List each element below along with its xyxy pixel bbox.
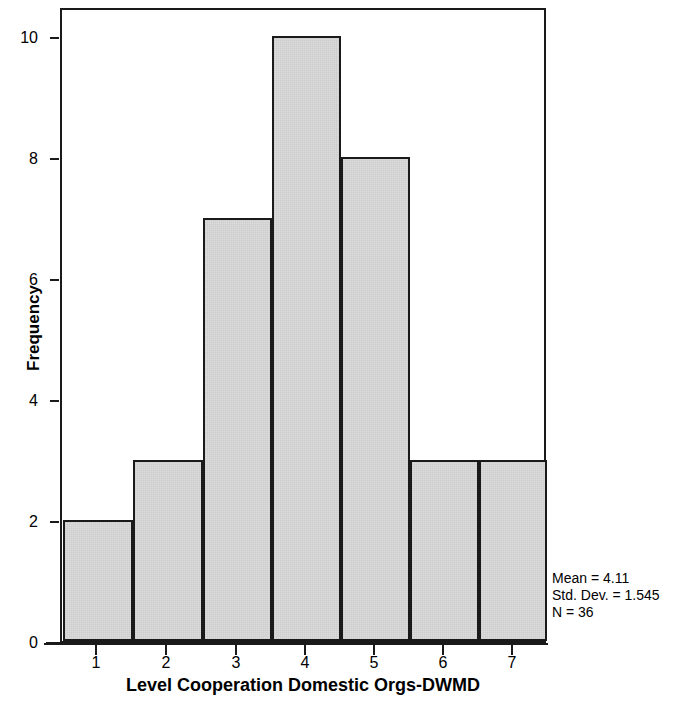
y-tick-mark-4 xyxy=(50,400,59,402)
histogram-bar xyxy=(341,157,410,641)
histogram-bar xyxy=(479,460,547,641)
y-tick-label-8: 8 xyxy=(0,151,38,167)
histogram-bar xyxy=(63,520,133,641)
plot-area xyxy=(60,8,546,643)
histogram-bar xyxy=(203,218,272,641)
x-tick-label-5: 5 xyxy=(359,655,389,671)
y-tick-label-10: 10 xyxy=(0,30,38,46)
y-tick-mark-6 xyxy=(50,279,59,281)
histogram-bar xyxy=(410,460,479,641)
stat-mean: Mean = 4.11 xyxy=(552,570,660,587)
y-tick-label-4: 4 xyxy=(0,393,38,409)
y-tick-mark-8 xyxy=(50,158,59,160)
histogram-bar xyxy=(133,460,203,641)
bars-layer xyxy=(62,10,544,641)
y-tick-label-2: 2 xyxy=(0,514,38,530)
x-tick-label-2: 2 xyxy=(151,655,181,671)
y-tick-label-0: 0 xyxy=(0,635,38,651)
y-tick-label-6: 6 xyxy=(0,272,38,288)
x-axis-line xyxy=(44,643,548,645)
stat-n: N = 36 xyxy=(552,604,660,621)
histogram-bar xyxy=(272,36,341,641)
x-tick-label-4: 4 xyxy=(290,655,320,671)
histogram-chart: Frequency 10 8 6 4 2 0 1 2 3 4 5 6 7 xyxy=(0,0,681,707)
y-tick-mark-10 xyxy=(50,37,59,39)
x-tick-label-1: 1 xyxy=(81,655,111,671)
statistics-annotation: Mean = 4.11 Std. Dev. = 1.545 N = 36 xyxy=(552,570,660,621)
x-tick-label-3: 3 xyxy=(221,655,251,671)
x-tick-label-6: 6 xyxy=(428,655,458,671)
x-tick-label-7: 7 xyxy=(497,655,527,671)
stat-std-dev: Std. Dev. = 1.545 xyxy=(552,587,660,604)
y-tick-mark-2 xyxy=(50,521,59,523)
x-axis-title: Level Cooperation Domestic Orgs-DWMD xyxy=(60,675,546,696)
